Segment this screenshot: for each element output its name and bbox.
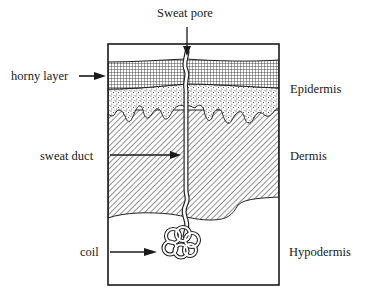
hypodermis-label: Hypodermis	[289, 245, 351, 259]
epidermis-label: Epidermis	[290, 82, 341, 96]
sweat-gland-coil	[164, 227, 200, 258]
dermis-label: Dermis	[290, 149, 327, 163]
horny-layer-region	[108, 59, 279, 89]
coil-arrow	[110, 248, 157, 256]
horny-layer-arrow	[79, 72, 106, 80]
dermis-region	[108, 110, 279, 220]
sweat-duct-label: sweat duct	[40, 149, 93, 163]
coil-label: coil	[80, 245, 99, 259]
sweat-pore-arrow	[183, 27, 191, 56]
sweat-pore-label: Sweat pore	[157, 6, 213, 20]
horny-layer-label: horny layer	[11, 69, 68, 83]
